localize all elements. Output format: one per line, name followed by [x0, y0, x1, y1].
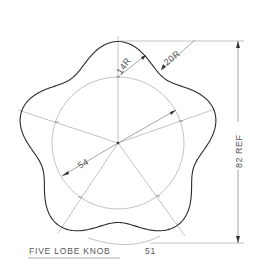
- technical-drawing: 54 14R 20R 82 REF FIVE LOBE KNOB 51: [0, 0, 261, 269]
- dimension-82-ref-label: 82 REF: [234, 134, 244, 168]
- dimension-20r: 20R: [161, 40, 195, 70]
- dimension-54-label: 54: [76, 157, 91, 171]
- center-line-left: [18, 110, 118, 143]
- dimension-82-ref: 82 REF: [118, 41, 244, 243]
- center-line-right: [118, 109, 215, 143]
- figure-number: 51: [145, 246, 156, 256]
- dimension-20r-label: 20R: [162, 48, 182, 67]
- drawing-title: FIVE LOBE KNOB: [29, 246, 111, 256]
- dimension-14r-label: 14R: [114, 56, 133, 76]
- center-line-bottom-right: [118, 143, 185, 236]
- intersection-ticks: [55, 77, 183, 197]
- bottom-construction-arc: [88, 236, 160, 245]
- dimension-14r: 14R: [114, 55, 146, 77]
- dimension-54: 54: [62, 143, 118, 176]
- center-line-bottom-left: [58, 143, 118, 233]
- dimension-inner-right: [118, 110, 176, 143]
